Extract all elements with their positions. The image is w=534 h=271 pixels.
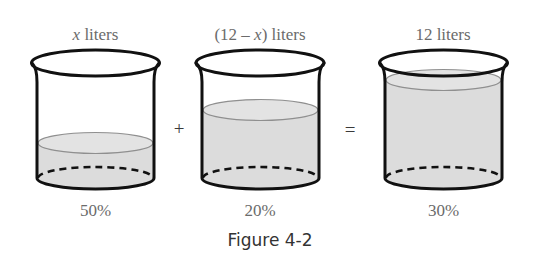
plus-operator: +: [174, 118, 185, 139]
figure-caption: Figure 4-2: [227, 230, 312, 250]
beaker-2-volume-label: (12 – x) liters: [214, 25, 305, 44]
beaker-1: x liters 50%: [32, 25, 160, 220]
mixture-diagram: x liters 50% + (12 – x) liters 20% = 12 …: [0, 0, 534, 271]
beaker-2-concentration: 20%: [244, 201, 275, 220]
beaker-1-concentration: 50%: [80, 201, 111, 220]
beaker-1-liquid-surface: [38, 133, 153, 154]
equals-operator: =: [345, 119, 356, 140]
beaker-3-volume-label: 12 liters: [415, 25, 470, 44]
beaker-3-concentration: 30%: [428, 201, 459, 220]
beaker-2-liquid-surface: [203, 100, 318, 121]
beaker-1-volume-label: x liters: [72, 25, 119, 44]
beaker-3: 12 liters 30%: [380, 25, 508, 220]
beaker-2-rim: [196, 50, 324, 76]
beaker-1-rim: [32, 50, 160, 76]
beaker-2: (12 – x) liters 20%: [196, 25, 324, 220]
